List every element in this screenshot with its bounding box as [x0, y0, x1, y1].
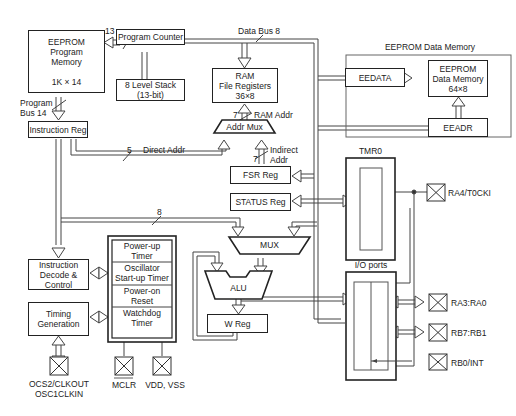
label: File Registers: [219, 81, 271, 91]
ram-addr-label: RAM Addr: [254, 110, 293, 120]
label: Decode &: [40, 270, 77, 280]
label: 8 Level Stack: [125, 80, 176, 90]
program-counter-block: Program Counter: [116, 29, 185, 45]
pin-mclr: MCLR: [108, 380, 140, 390]
power-up-timer: Power-upTimer: [112, 241, 172, 261]
label: Power-up: [124, 241, 160, 251]
pin-vdd-vss: VDD, VSS: [140, 380, 190, 390]
label: Control: [45, 280, 72, 290]
label: Memory: [51, 57, 82, 67]
ram-addr-width: 7: [233, 110, 238, 120]
label: Timer: [131, 318, 152, 328]
alu-label: ALU: [215, 283, 262, 293]
label: OCS2/CLKOUT: [29, 379, 89, 389]
label: 64×8: [448, 84, 467, 94]
label: Instruction: [39, 260, 78, 270]
fsr-reg-block: FSR Reg: [230, 166, 291, 184]
pin-ra4-t0cki: RA4/T0CKI: [448, 188, 491, 198]
status-reg-block: STATUS Reg: [230, 193, 291, 211]
timing-generation-block: TimingGeneration: [28, 302, 89, 336]
direct-addr-width: 5: [127, 145, 132, 155]
pin-ra3-ra0: RA3:RA0: [451, 298, 486, 308]
label: EEPROM: [440, 64, 477, 74]
label: Start-up Timer: [115, 273, 169, 283]
mux-label: MUX: [240, 240, 299, 250]
label: Power-on: [124, 286, 160, 296]
instruction-reg-block: Instruction Reg: [28, 121, 88, 138]
label: Generation: [37, 319, 79, 329]
label: Data Memory: [432, 74, 483, 84]
direct-addr-label: Direct Addr: [143, 145, 185, 155]
ram-file-registers-block: RAMFile Registers36×8: [212, 68, 278, 103]
pc-width-label: 13: [105, 26, 114, 36]
pin-rb0-int: RB0/INT: [451, 358, 484, 368]
label: Addr: [270, 155, 288, 165]
label: 1K × 14: [52, 77, 82, 87]
label: Oscillator: [124, 263, 159, 273]
eeprom-data-memory-block: EEPROMData Memory64×8: [428, 60, 488, 97]
tmr0-label: TMR0: [346, 146, 395, 156]
watchdog-timer: WatchdogTimer: [112, 308, 172, 328]
label: Reset: [131, 296, 153, 306]
label: EEPROM: [48, 37, 85, 47]
label: Program: [20, 98, 53, 108]
literal-width: 8: [157, 207, 162, 217]
stack-block: 8 Level Stack(13-bit): [116, 79, 185, 101]
power-on-reset: Power-onReset: [112, 286, 172, 306]
label: Watchdog: [123, 308, 161, 318]
eeprom-program-memory-block: EEPROMProgramMemory1K × 14: [28, 30, 105, 93]
pin-rb7-rb1: RB7:RB1: [451, 328, 486, 338]
label: Program: [50, 47, 83, 57]
block-diagram: EEPROMProgramMemory1K × 14 Program Count…: [0, 0, 516, 416]
addr-mux-label: Addr Mux: [214, 122, 275, 132]
eeadr-block: EEADR: [428, 118, 488, 137]
data-bus-label: Data Bus 8: [238, 26, 280, 36]
oscillator-startup-timer: OscillatorStart-up Timer: [112, 263, 172, 283]
label: 36×8: [235, 91, 254, 101]
indirect-width: 7: [253, 154, 258, 164]
label: Timing: [46, 309, 71, 319]
label: (13-bit): [137, 90, 164, 100]
eedata-block: EEDATA: [345, 68, 405, 87]
label: RAM: [236, 71, 255, 81]
label: OSC1CLKIN: [35, 389, 83, 399]
instruction-decode-block: InstructionDecode &Control: [28, 259, 89, 290]
indirect-addr-label: IndirectAddr: [270, 145, 298, 165]
program-bus-label: ProgramBus 14: [20, 98, 53, 118]
w-reg-block: W Reg: [207, 314, 268, 333]
label: Bus 14: [20, 108, 46, 118]
eeprom-data-group-label: EEPROM Data Memory: [370, 42, 490, 52]
label: Timer: [131, 251, 152, 261]
io-ports-label: I/O ports: [346, 260, 396, 270]
pin-osc: OCS2/CLKOUTOSC1CLKIN: [28, 379, 90, 399]
label: Indirect: [270, 145, 298, 155]
